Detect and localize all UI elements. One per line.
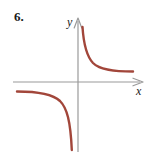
y-axis-label: y [66, 15, 73, 29]
figure-container: 6. y x [0, 0, 154, 158]
graph-plot: y x [0, 0, 154, 158]
hyperbola-branch-quadrant-three [17, 92, 72, 151]
hyperbola-branch-quadrant-one [83, 27, 134, 72]
y-axis [74, 18, 82, 152]
x-axis-label: x [135, 84, 142, 98]
